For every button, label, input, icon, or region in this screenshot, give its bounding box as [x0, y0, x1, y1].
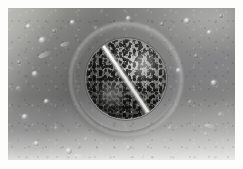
debris-particle — [16, 86, 21, 91]
debris-particle — [52, 29, 56, 33]
debris-particle — [126, 145, 131, 150]
cell-membrane-outline — [84, 37, 168, 121]
debris-particle — [32, 71, 38, 77]
bacterial-cell — [78, 31, 174, 127]
debris-particle — [26, 24, 31, 29]
debris-particle — [211, 80, 217, 86]
debris-particle — [140, 154, 144, 158]
debris-particle — [194, 54, 198, 58]
debris-particle — [188, 100, 192, 104]
debris-particle — [126, 16, 131, 21]
debris-particle — [39, 37, 46, 44]
debris-particle — [218, 112, 223, 117]
debris-particle — [204, 132, 208, 136]
debris-particle — [22, 114, 28, 120]
micrograph-image — [8, 8, 235, 160]
debris-particle — [207, 30, 212, 35]
debris-particle — [44, 99, 49, 104]
debris-particle — [219, 14, 223, 18]
debris-particle — [70, 20, 75, 25]
photo-frame — [0, 0, 243, 169]
debris-particle — [184, 18, 190, 24]
debris-particle — [160, 22, 164, 26]
debris-particle — [54, 126, 58, 130]
debris-particle — [34, 141, 39, 146]
debris-particle — [17, 60, 21, 64]
debris-particle — [84, 137, 88, 141]
debris-particle — [66, 148, 72, 154]
